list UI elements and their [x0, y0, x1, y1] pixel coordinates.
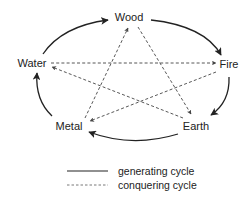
node-wood: Wood [115, 11, 144, 23]
legend: generating cycle conquering cycle [67, 165, 197, 191]
arrow-earth-to-metal [89, 132, 178, 141]
node-fire: Fire [220, 58, 239, 70]
arrow-metal-to-water [37, 73, 52, 116]
arrow-wood-to-earth [138, 27, 191, 114]
arrow-wood-to-fire [151, 20, 221, 55]
arrow-fire-to-metal [90, 72, 216, 121]
legend-conquering-label: conquering cycle [118, 179, 197, 191]
node-water: Water [18, 57, 47, 69]
arrow-metal-to-wood [85, 28, 128, 118]
arrow-water-to-wood [43, 20, 108, 54]
five-elements-diagram: Wood Fire Earth Metal Water generating c… [0, 0, 251, 203]
node-metal: Metal [56, 120, 83, 132]
conquering-cycle [51, 27, 216, 121]
node-earth: Earth [183, 120, 209, 132]
legend-generating-label: generating cycle [118, 165, 195, 177]
arrow-fire-to-earth [211, 77, 229, 115]
